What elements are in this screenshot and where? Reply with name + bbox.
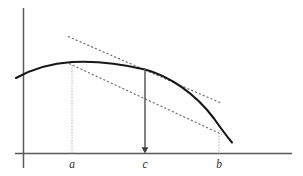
axis-label-c: c [142, 158, 147, 170]
arrow-head-c [142, 147, 149, 153]
curve-path [16, 62, 232, 143]
figure-canvas: a c b [0, 0, 303, 176]
axis-label-b: b [216, 158, 222, 170]
chart-svg: a c b [0, 0, 303, 176]
axis-label-a: a [69, 158, 75, 170]
